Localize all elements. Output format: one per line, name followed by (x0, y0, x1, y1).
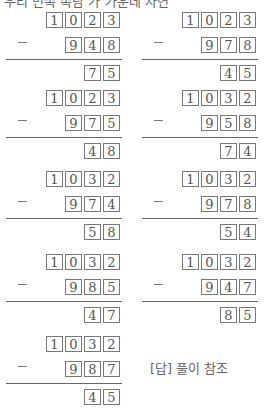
digit-box: 5 (103, 115, 120, 131)
minuend-row: 1032 (182, 171, 256, 187)
digit-box: 7 (239, 279, 256, 295)
digit-box: 4 (239, 224, 256, 240)
digit-box: 8 (103, 37, 120, 53)
subtraction-problem: 103298745 (6, 336, 122, 409)
minuend-row: 1023 (46, 12, 120, 28)
digit-box: 7 (220, 143, 237, 159)
subtrahend-row: 947 (201, 279, 256, 295)
digit-box: 3 (103, 12, 120, 28)
digit-box: 0 (65, 171, 82, 187)
digit-box: 9 (65, 279, 82, 295)
digit-box: 4 (84, 307, 101, 323)
result-row: 48 (84, 143, 120, 159)
divider-line (6, 301, 122, 302)
divider-line (6, 137, 122, 138)
answer-label: [답] 풀이 참조 (150, 358, 228, 377)
digit-box: 2 (103, 171, 120, 187)
minus-sign (18, 366, 27, 367)
result-row: 45 (84, 389, 120, 405)
result-row: 54 (220, 224, 256, 240)
divider-line (6, 59, 122, 60)
subtraction-problem: 103297458 (6, 171, 122, 245)
subtraction-problem: 102394875 (6, 12, 122, 86)
minuend-row: 1023 (46, 90, 120, 106)
digit-box: 9 (65, 37, 82, 53)
digit-box: 4 (103, 196, 120, 212)
result-row: 45 (220, 65, 256, 81)
subtrahend-row: 978 (201, 196, 256, 212)
minus-sign (154, 120, 163, 121)
digit-box: 5 (239, 65, 256, 81)
digit-box: 9 (201, 115, 218, 131)
digit-box: 7 (220, 37, 237, 53)
digit-box: 5 (239, 307, 256, 323)
digit-box: 9 (201, 37, 218, 53)
digit-box: 1 (46, 171, 63, 187)
subtraction-problem: 102397845 (142, 12, 258, 86)
result-row: 75 (84, 65, 120, 81)
digit-box: 2 (103, 336, 120, 352)
digit-box: 5 (84, 224, 101, 240)
digit-box: 7 (103, 361, 120, 377)
digit-box: 1 (182, 90, 199, 106)
subtrahend-row: 975 (65, 115, 120, 131)
digit-box: 5 (103, 389, 120, 405)
divider-line (142, 218, 258, 219)
digit-box: 0 (65, 12, 82, 28)
digit-box: 2 (239, 254, 256, 270)
minus-sign (154, 42, 163, 43)
digit-box: 3 (220, 90, 237, 106)
digit-box: 0 (201, 12, 218, 28)
digit-box: 1 (182, 171, 199, 187)
subtrahend-row: 978 (201, 37, 256, 53)
digit-box: 4 (84, 143, 101, 159)
digit-box: 4 (220, 279, 237, 295)
digit-box: 4 (84, 389, 101, 405)
digit-box: 9 (65, 115, 82, 131)
subtrahend-row: 987 (65, 361, 120, 377)
subtraction-problem: 103297854 (142, 171, 258, 245)
digit-box: 3 (103, 90, 120, 106)
digit-box: 1 (46, 254, 63, 270)
digit-box: 8 (239, 196, 256, 212)
result-row: 58 (84, 224, 120, 240)
digit-box: 2 (103, 254, 120, 270)
minus-sign (154, 201, 163, 202)
digit-box: 2 (239, 171, 256, 187)
digit-box: 5 (103, 279, 120, 295)
digit-box: 1 (46, 12, 63, 28)
digit-box: 3 (239, 12, 256, 28)
digit-box: 4 (220, 65, 237, 81)
digit-box: 9 (65, 361, 82, 377)
subtrahend-row: 974 (65, 196, 120, 212)
subtrahend-row: 948 (65, 37, 120, 53)
digit-box: 7 (84, 65, 101, 81)
digit-box: 8 (239, 37, 256, 53)
subtraction-problem: 102397548 (6, 90, 122, 164)
digit-box: 9 (201, 196, 218, 212)
digit-box: 8 (220, 307, 237, 323)
digit-box: 3 (220, 254, 237, 270)
digit-box: 0 (65, 336, 82, 352)
minus-sign (154, 284, 163, 285)
result-row: 74 (220, 143, 256, 159)
divider-line (142, 59, 258, 60)
digit-box: 9 (65, 196, 82, 212)
subtrahend-row: 985 (65, 279, 120, 295)
digit-box: 3 (84, 336, 101, 352)
header-fragment: 우리 민속 속담 가 가운데 자연 (4, 0, 169, 10)
minuend-row: 1032 (46, 254, 120, 270)
digit-box: 9 (201, 279, 218, 295)
subtraction-problem: 103295874 (142, 90, 258, 164)
digit-box: 8 (84, 279, 101, 295)
minuend-row: 1032 (182, 254, 256, 270)
divider-line (142, 137, 258, 138)
digit-box: 2 (84, 90, 101, 106)
minuend-row: 1023 (182, 12, 256, 28)
digit-box: 1 (46, 90, 63, 106)
digit-box: 7 (84, 196, 101, 212)
digit-box: 5 (220, 115, 237, 131)
minus-sign (18, 120, 27, 121)
digit-box: 5 (103, 65, 120, 81)
digit-box: 8 (84, 361, 101, 377)
